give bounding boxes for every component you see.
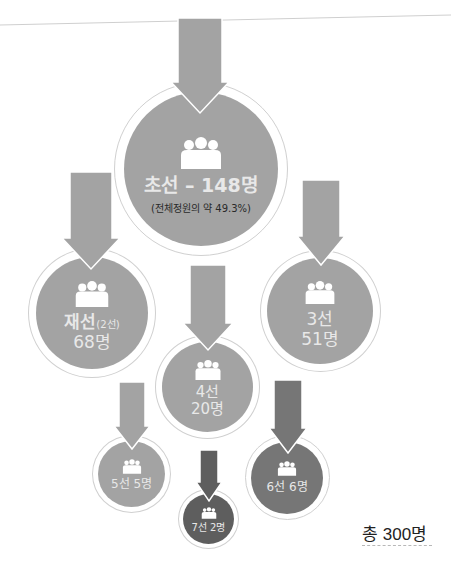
down-arrow-icon	[268, 380, 308, 456]
first-term-percentage: (전체정원의 약 49.3%)	[151, 200, 251, 215]
fourth-term-label: 4선	[196, 384, 220, 401]
second-term-circle: 재선(2선) 68명	[36, 257, 148, 369]
third-term-count: 51명	[301, 330, 339, 350]
third-term-label: 3선	[307, 310, 334, 330]
down-arrow-icon	[296, 180, 346, 268]
total-dashed-underline	[362, 545, 432, 546]
people-group-icon	[201, 507, 217, 519]
people-group-icon	[122, 459, 142, 474]
second-term-count: 68명	[73, 333, 111, 353]
sixth-term-label: 6선 6명	[266, 481, 307, 495]
people-group-icon	[194, 360, 222, 380]
fifth-term-label: 5선 5명	[111, 478, 152, 492]
second-term-qualifier: (2선)	[96, 319, 119, 330]
first-term-label: 초선 – 148명	[144, 175, 257, 197]
people-group-icon	[304, 281, 336, 304]
third-term-circle: 3선 51명	[267, 258, 373, 364]
people-group-icon	[277, 461, 297, 476]
fourth-term-count: 20명	[191, 401, 224, 418]
people-group-icon	[74, 281, 110, 307]
second-term-label: 재선(2선)	[64, 313, 119, 333]
seventh-term-label: 7선 2명	[192, 522, 226, 534]
down-arrow-icon	[60, 172, 122, 272]
down-arrow-icon	[182, 265, 234, 353]
down-arrow-icon	[170, 18, 230, 116]
second-term-name: 재선	[64, 312, 96, 332]
total-count-label: 총 300명	[362, 520, 427, 545]
people-group-icon	[179, 137, 223, 169]
down-arrow-icon	[195, 450, 223, 504]
down-arrow-icon	[113, 382, 151, 452]
fourth-term-circle: 4선 20명	[162, 342, 253, 432]
